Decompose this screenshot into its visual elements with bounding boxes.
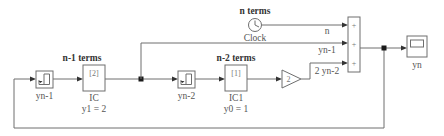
sum-block[interactable]: + + +	[348, 17, 360, 72]
arrowhead	[342, 41, 348, 46]
sum-sign-1: +	[352, 21, 357, 30]
clock-block[interactable]	[249, 19, 262, 32]
unit-delay-yn-1-block[interactable]	[36, 71, 53, 88]
gain-block[interactable]: 2	[282, 70, 301, 88]
ic1-sublabel: y0 = 1	[224, 104, 249, 114]
arrowhead	[342, 23, 348, 28]
arrowhead	[401, 46, 407, 51]
group-label-n-minus-1: n-1 terms	[63, 53, 102, 63]
ic-sublabel: y1 = 2	[82, 104, 107, 114]
ic-block[interactable]: [2]	[83, 65, 105, 91]
signal-label-yn-1: yn-1	[318, 45, 336, 55]
sum-sign-3: +	[352, 59, 357, 68]
unit-delay-yn-1-label: yn-1	[36, 91, 54, 101]
junction-dot	[382, 46, 387, 51]
simulink-diagram: n-1 terms yn-1 [2] IC y1 = 2 n-2 terms y…	[0, 0, 444, 136]
ic1-block[interactable]: [1]	[225, 65, 247, 91]
arrowhead	[77, 77, 83, 82]
scope-label: yn	[412, 60, 422, 70]
clock-icon	[249, 19, 262, 32]
arrowhead	[276, 77, 282, 82]
signal-label-n: n	[325, 26, 330, 36]
unit-delay-yn-2-label: yn-2	[178, 91, 196, 101]
arrowhead	[342, 61, 348, 66]
arrowhead	[30, 77, 36, 82]
signal-label-2yn-2: 2 yn-2	[315, 66, 340, 76]
arrowhead	[172, 77, 178, 82]
ic1-label: IC1	[229, 93, 244, 103]
ic-label: IC	[89, 93, 99, 103]
sum-sign-2: +	[352, 40, 357, 49]
unit-delay-yn-2-block[interactable]	[178, 71, 195, 88]
gain-value: 2	[287, 75, 291, 84]
scope-block[interactable]	[407, 36, 427, 57]
group-label-n-minus-2: n-2 terms	[217, 53, 256, 63]
arrowhead	[219, 77, 225, 82]
group-label-n-terms: n terms	[240, 6, 271, 16]
ic1-value: [1]	[231, 69, 241, 78]
clock-label: Clock	[244, 33, 267, 43]
ic-value: [2]	[89, 69, 99, 78]
